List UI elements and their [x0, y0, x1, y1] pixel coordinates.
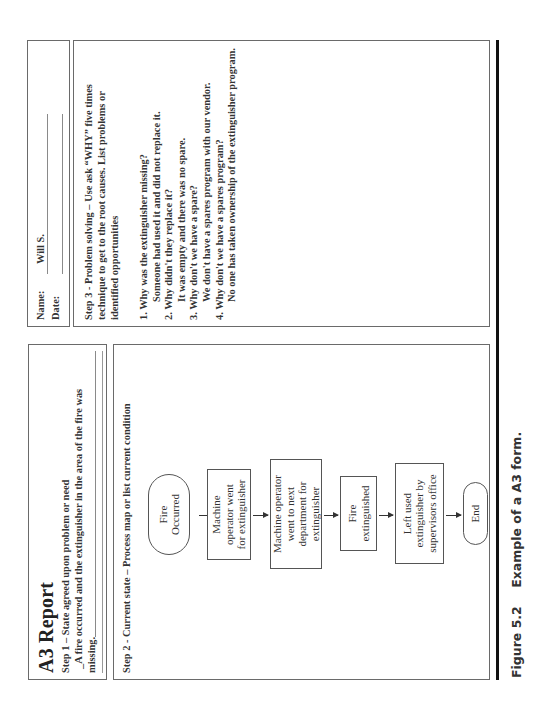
step2-label: Step 2 - Current state – Process map or … [120, 345, 133, 673]
flow-end: End [463, 482, 488, 545]
flow-text: Fire [157, 494, 170, 535]
step1-text-line2: missing. [85, 637, 98, 673]
five-whys-list: 1. Why was the extinguisher missing? Som… [138, 41, 239, 320]
rotated-a3-form-figure: A3 Report Step 1 – State agreed upon pro… [27, 40, 537, 680]
step3-label-line: Step 3 - Problem solving – Use ask “WHY”… [82, 41, 95, 320]
form-title: A3 Report [35, 345, 57, 673]
flow-step-fire-extinguished: Fireextinguished [340, 476, 377, 551]
name-value: Will S. [35, 234, 46, 264]
flow-text: operator went [223, 480, 236, 550]
step1-fill-line [85, 351, 96, 637]
flow-text: supervisors office [426, 474, 439, 552]
flow-step-next-department: Machine operatorwent to nextdepartment f… [270, 459, 322, 569]
flow-arrow [379, 515, 393, 516]
flow-text: went to next [284, 475, 297, 553]
step3-label: Step 3 - Problem solving – Use ask “WHY”… [82, 41, 121, 320]
date-label: Date: [49, 274, 63, 320]
flow-arrow [446, 515, 461, 516]
name-row: Name: Will S. [34, 41, 48, 320]
name-date-panel: Name: Will S. Date: [27, 40, 70, 327]
step1-text-line1: _A fire occurred and the extinguisher in… [72, 345, 85, 669]
why-question: 1. Why was the extinguisher missing? [138, 41, 151, 320]
step1-blank-line [102, 351, 103, 673]
flow-arrow [253, 515, 268, 516]
figure-caption: Figure 5.2 Example of a A3 form. [509, 432, 524, 678]
flow-start-fire-occurred: FireOccurred [148, 474, 190, 555]
flow-text: End [469, 505, 482, 523]
why-question: 3. Why don't we have a spare? [188, 41, 201, 320]
figure-rule [496, 40, 499, 680]
name-label: Name: [34, 274, 48, 320]
step3-label-line: identified opportunities [108, 41, 121, 320]
flow-step-operator-went: Machineoperator wentfor extinguisher [207, 469, 251, 560]
name-field[interactable]: Will S. [34, 114, 48, 274]
flow-text: Machine operator [271, 475, 284, 553]
why-question: 4. Why don't we have a spares program? [214, 41, 227, 320]
flow-text: extinguisher [309, 475, 322, 553]
flow-text: Fire [346, 485, 359, 541]
step3-panel: Step 3 - Problem solving – Use ask “WHY”… [73, 40, 490, 327]
why-question: 2. Why didn't they replace it? [163, 41, 176, 320]
flow-text: extinguished [359, 485, 372, 541]
flow-step-left-used-extinguisher: Left usedextinguisher bysupervisors offi… [395, 463, 444, 564]
flow-text: Occurred [169, 494, 182, 535]
why-answer: Someone had used it and did not replace … [151, 41, 164, 320]
step1-text-line2-row: missing. [85, 351, 98, 673]
why-answer: No one has taken ownership of the exting… [226, 41, 239, 320]
flow-text: for extinguisher [235, 480, 248, 550]
date-field[interactable] [49, 114, 63, 274]
step1-label: Step 1 – State agreed upon problem or ne… [59, 345, 72, 673]
date-row: Date: [49, 41, 63, 320]
flow-arrow [324, 515, 338, 516]
step3-label-line: technique to get to the root causes. Lis… [95, 41, 108, 320]
flow-text: department for [296, 475, 309, 553]
flow-text: Machine [210, 480, 223, 550]
why-answer: We don't have a spares program with our … [201, 41, 214, 320]
why-answer: It was empty and there was no spare. [176, 41, 189, 320]
flow-text: Left used [401, 474, 414, 552]
figure-caption-text: Example of a A3 form. [509, 432, 524, 588]
step1-panel: A3 Report Step 1 – State agreed upon pro… [28, 344, 107, 680]
figure-number: Figure 5.2 [509, 606, 524, 678]
flow-text: extinguisher by [413, 474, 426, 552]
